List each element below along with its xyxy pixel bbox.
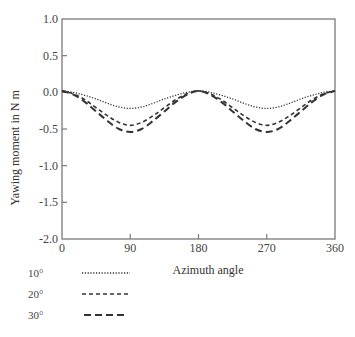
x-tick-label: 180 [190, 241, 208, 255]
legend-item: 10° [28, 267, 130, 279]
y-tick-label: -0.5 [39, 122, 58, 136]
series-line-long-dashed [62, 91, 335, 132]
y-tick-label: 0.0 [43, 85, 58, 99]
x-axis-ticks: 090180270360 [59, 234, 344, 255]
y-tick-label: -1.5 [39, 195, 58, 209]
x-tick-label: 360 [326, 241, 344, 255]
legend: 10°20°30° [28, 267, 130, 321]
x-tick-label: 0 [59, 241, 65, 255]
legend-label: 20° [28, 288, 43, 300]
y-tick-label: -1.0 [39, 159, 58, 173]
y-tick-label: -2.0 [39, 232, 58, 246]
x-tick-label: 270 [258, 241, 276, 255]
series-layer [62, 91, 335, 132]
legend-label: 10° [28, 267, 43, 279]
y-axis-title: Yawing moment in N m [8, 90, 22, 206]
legend-item: 30° [28, 309, 127, 321]
series-line-dotted [62, 91, 335, 109]
plot-border [62, 19, 335, 239]
chart: 1.00.50.0-0.5-1.0-1.5-2.0 090180270360 Y… [0, 0, 355, 337]
legend-label: 30° [28, 309, 43, 321]
series-line-dashed [62, 91, 335, 125]
y-axis-ticks: 1.00.50.0-0.5-1.0-1.5-2.0 [39, 12, 67, 246]
x-tick-label: 90 [124, 241, 136, 255]
y-tick-label: 0.5 [43, 49, 58, 63]
x-axis-title: Azimuth angle [173, 263, 244, 277]
y-tick-label: 1.0 [43, 12, 58, 26]
legend-item: 20° [28, 288, 130, 300]
plot-frame [62, 19, 335, 239]
